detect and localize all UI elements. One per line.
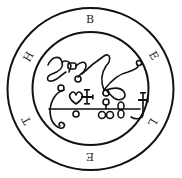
sigil-small-box	[68, 63, 76, 69]
sigil-right-small-circle	[137, 61, 142, 66]
seal: B E L E T H	[0, 0, 182, 178]
ring-letter-t: T	[19, 113, 34, 126]
sigil-left-cross	[81, 89, 94, 105]
ring-letter-h: H	[21, 49, 37, 64]
sigil-central-loop	[82, 55, 110, 90]
inner-ring	[33, 32, 149, 145]
ring-letter-e-right: E	[146, 49, 161, 62]
sigil-circle-below-heart	[73, 111, 79, 117]
ring-letter-l: L	[145, 116, 160, 129]
sigil-heart	[70, 92, 83, 104]
sigil-figure-eight-bottom	[118, 110, 124, 118]
sigil-center-circle-mid	[103, 99, 109, 105]
ring-letter-e-bottom: E	[86, 150, 94, 163]
sigil-right-cross	[138, 92, 149, 104]
sigil-double-loop-left	[99, 112, 106, 119]
ring-letter-b: B	[86, 13, 94, 26]
sigil-right-sweep	[104, 66, 138, 90]
sigil-upper-mid-curve	[76, 62, 86, 77]
sigil-double-loop-right	[107, 112, 114, 119]
sigil-left-circle	[58, 85, 64, 91]
sigil	[48, 55, 149, 128]
